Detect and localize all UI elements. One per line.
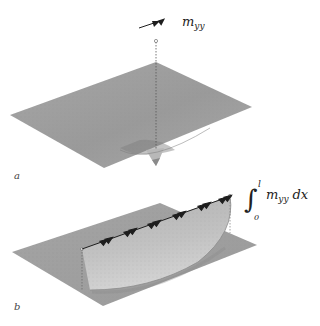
svg-text:myydx: myydx — [266, 187, 309, 204]
panel-a: myy a — [10, 14, 252, 181]
svg-text:∫: ∫ — [244, 184, 258, 214]
svg-text:l: l — [258, 179, 261, 189]
moment-arrow-icon — [139, 18, 167, 28]
figure-svg: myy a — [0, 0, 320, 326]
panel-label-a: a — [14, 170, 20, 181]
plate-surface-b — [12, 196, 257, 306]
integral-label-b: ∫ 0 l myydx — [244, 179, 309, 222]
panel-b: ∫ 0 l myydx b — [12, 179, 309, 312]
plate-surface-a — [10, 62, 252, 168]
svg-text:0: 0 — [254, 213, 259, 222]
load-point-marker-a — [154, 39, 157, 42]
figure-canvas: myy a — [0, 0, 320, 326]
panel-label-b: b — [14, 301, 20, 312]
moment-label-a: myy — [182, 14, 205, 31]
